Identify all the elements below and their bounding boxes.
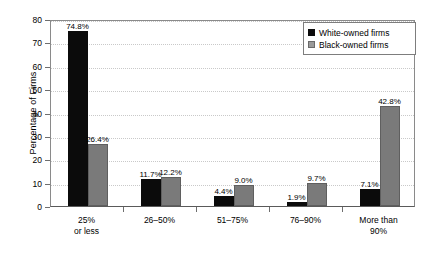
x-axis-category-label-line1: More than — [359, 215, 397, 225]
gray-swatch-icon — [308, 41, 315, 48]
x-axis-category-label-line2: 90% — [333, 226, 425, 237]
y-axis-tick-label: 40 — [12, 109, 42, 119]
bar-value-label: 4.4% — [214, 187, 232, 196]
bar-chart: Percentage of Firms 01020304050607080 74… — [0, 0, 426, 264]
bar-white-owned: 1.9% — [287, 202, 307, 206]
y-axis-tick-mark — [45, 207, 50, 208]
bar-group: 74.8%26.4% — [68, 21, 108, 206]
bar-white-owned: 7.1% — [360, 189, 380, 206]
legend-label-white-owned: White-owned firms — [319, 28, 389, 38]
y-axis-tick-label: 20 — [12, 155, 42, 165]
bar-value-label: 9.7% — [307, 174, 325, 183]
bar-value-label: 9.0% — [234, 176, 252, 185]
bar-white-owned: 4.4% — [214, 196, 234, 206]
y-axis-tick-label: 80 — [12, 15, 42, 25]
x-axis-category-label-line1: 76–90% — [290, 215, 321, 225]
y-axis-tick-label: 70 — [12, 38, 42, 48]
bar-group: 4.4%9.0% — [214, 21, 254, 206]
bar-value-label: 26.4% — [86, 135, 109, 144]
black-swatch-icon — [308, 29, 315, 36]
y-axis-tick-label: 50 — [12, 85, 42, 95]
bar-black-owned: 12.2% — [161, 177, 181, 206]
bar-value-label: 1.9% — [287, 193, 305, 202]
x-axis-tick-mark — [342, 207, 343, 212]
x-axis-category-label-line1: 25% — [78, 215, 95, 225]
legend-item-black-owned: Black-owned firms — [308, 39, 411, 50]
bar-black-owned: 26.4% — [88, 144, 108, 206]
bar-value-label: 12.2% — [159, 168, 182, 177]
y-axis-tick-label: 10 — [12, 179, 42, 189]
bar-black-owned: 42.8% — [380, 106, 400, 206]
bar-group: 11.7%12.2% — [141, 21, 181, 206]
x-axis-category-label: More than90% — [333, 215, 425, 237]
bar-value-label: 74.8% — [66, 22, 89, 31]
x-axis-tick-mark — [269, 207, 270, 212]
bar-black-owned: 9.7% — [307, 183, 327, 206]
bar-value-label: 42.8% — [378, 97, 401, 106]
x-axis-category-label-line1: 26–50% — [144, 215, 175, 225]
bar-white-owned: 74.8% — [68, 31, 88, 206]
x-axis-tick-mark — [196, 207, 197, 212]
y-axis-tick-label: 30 — [12, 132, 42, 142]
chart-legend: White-owned firms Black-owned firms — [303, 22, 416, 55]
legend-item-white-owned: White-owned firms — [308, 27, 411, 38]
bar-value-label: 7.1% — [360, 180, 378, 189]
x-axis-category-label-line2: or less — [41, 226, 133, 237]
bar-black-owned: 9.0% — [234, 185, 254, 206]
x-axis-tick-mark — [123, 207, 124, 212]
bar-white-owned: 11.7% — [141, 179, 161, 206]
legend-label-black-owned: Black-owned firms — [319, 40, 388, 50]
x-axis-category-label-line1: 51–75% — [217, 215, 248, 225]
y-axis-tick-label: 60 — [12, 62, 42, 72]
y-axis-tick-label: 0 — [12, 202, 42, 212]
